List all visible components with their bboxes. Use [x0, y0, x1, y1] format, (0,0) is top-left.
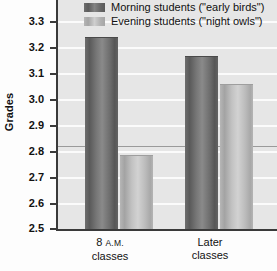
y-tick-label-3-0: 3.0 [4, 94, 44, 105]
plot-area [57, 0, 277, 229]
category-label-later: Later classes [172, 236, 248, 262]
y-tick-label-3-3: 3.3 [4, 16, 44, 27]
x-axis-baseline [56, 229, 277, 231]
y-tick-2-8 [50, 151, 57, 153]
y-tick-3-1 [50, 73, 57, 75]
y-tick-label-2-5: 2.5 [4, 223, 44, 234]
category-label-8am-main: 8 [96, 236, 102, 248]
y-tick-2-9 [50, 125, 57, 127]
y-tick-2-7 [50, 177, 57, 179]
y-tick-3-3 [50, 21, 57, 23]
legend-item-morning: Morning students ("early birds") [84, 2, 264, 13]
y-tick-label-2-9: 2.9 [4, 120, 44, 131]
category-label-later-line1: Later [172, 236, 248, 249]
legend: Morning students ("early birds") Evening… [84, 2, 264, 27]
y-axis-title: Grades [3, 77, 15, 147]
y-tick-label-2-6: 2.6 [4, 198, 44, 209]
category-label-8am-line2: classes [72, 250, 148, 263]
legend-item-evening: Evening students ("night owls") [84, 16, 264, 27]
category-label-later-line2: classes [172, 249, 248, 262]
y-tick-label-3-1: 3.1 [4, 68, 44, 79]
category-label-later-main: Later [197, 236, 222, 248]
y-tick-3-2 [50, 47, 57, 49]
y-tick-3-0 [50, 99, 57, 101]
bar-evening-later [220, 84, 253, 229]
legend-swatch-morning-icon [84, 3, 105, 12]
category-label-8am-smallcaps: A.M. [105, 238, 123, 248]
category-label-8am: 8 A.M. classes [72, 236, 148, 263]
y-tick-2-5 [50, 228, 57, 230]
category-label-8am-line1: 8 A.M. [72, 236, 148, 250]
y-tick-2-6 [50, 203, 57, 205]
bar-chart: Grades 3.3 3.2 3.1 3.0 2.9 2.8 2.7 2.6 2… [0, 0, 277, 271]
y-tick-label-3-2: 3.2 [4, 42, 44, 53]
legend-swatch-evening-icon [84, 17, 105, 26]
legend-label-evening: Evening students ("night owls") [111, 16, 263, 27]
bar-morning-later [185, 56, 218, 229]
bar-evening-8am [120, 155, 153, 229]
y-axis-spine [56, 0, 58, 231]
y-tick-label-2-8: 2.8 [4, 146, 44, 157]
y-tick-label-2-7: 2.7 [4, 172, 44, 183]
bar-morning-8am [85, 37, 118, 229]
legend-label-morning: Morning students ("early birds") [111, 2, 264, 13]
